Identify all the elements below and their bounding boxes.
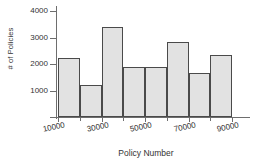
y-axis-tick-label: 1000 <box>2 86 48 95</box>
y-axis-tick-label: 3000 <box>2 33 48 42</box>
histogram-bar <box>189 73 211 117</box>
histogram-bar <box>102 27 124 117</box>
y-axis-tick <box>50 64 57 65</box>
histogram-bar <box>145 67 167 117</box>
y-axis-tick-label: 2000 <box>2 59 48 68</box>
x-axis-tick-label: 30000 <box>86 120 110 133</box>
y-axis-tick <box>50 38 57 39</box>
x-axis-tick-label: 50000 <box>129 120 153 133</box>
x-axis-minor-tick <box>167 117 168 121</box>
histogram-bar <box>58 58 80 117</box>
y-axis-tick <box>50 11 57 12</box>
x-axis-tick-label: 90000 <box>216 120 240 133</box>
y-axis-tick-labels: 1000200030004000 <box>0 0 48 168</box>
histogram-bar <box>123 67 145 117</box>
histogram-bar <box>167 42 189 117</box>
histogram-chart: # of Policies 1000200030004000 100003000… <box>0 0 257 168</box>
y-axis-tick <box>50 91 57 92</box>
histogram-bar <box>210 55 232 117</box>
x-axis-minor-tick <box>80 117 81 121</box>
x-axis-label: Policy Number <box>56 148 236 158</box>
y-axis-tick-label: 4000 <box>2 6 48 15</box>
y-axis-line <box>56 6 57 119</box>
x-axis-minor-tick <box>210 117 211 121</box>
histogram-bar <box>80 85 102 117</box>
plot-area <box>58 6 232 117</box>
x-axis-minor-tick <box>123 117 124 121</box>
x-axis-tick-label: 70000 <box>173 120 197 133</box>
